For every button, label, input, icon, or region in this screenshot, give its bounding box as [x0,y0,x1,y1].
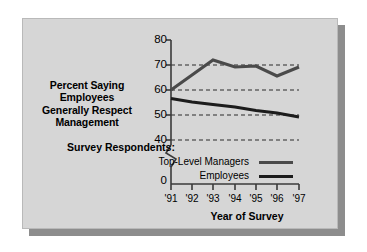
x-axis-caption: Year of Survey [147,210,347,222]
x-axis-tick-label-93: '93 [201,193,225,204]
y-axis-caption-line-2: Employees [27,91,147,103]
legend-entry-top-level-managers: Top-Level Managers [67,156,293,169]
chart-panel: Percent Saying Employees Generally Respe… [22,18,338,229]
x-axis-ticks [171,184,299,190]
legend-entry-employees: Employees [67,170,293,183]
y-axis-caption-line-1: Percent Saying [27,79,147,91]
y-axis-tick-label-50: 50 [141,108,167,120]
legend-title: Survey Respondents: [67,141,175,153]
legend-swatch-top-level-managers [259,161,293,164]
y-axis-tick-label-80: 80 [141,33,167,45]
y-axis-tick-label-70: 70 [141,58,167,70]
chart-figure: Percent Saying Employees Generally Respe… [0,0,367,252]
y-axis-tick-label-60: 60 [141,83,167,95]
series-line-employees [171,99,299,118]
legend-label-top-level-managers: Top-Level Managers [158,156,249,167]
legend-label-employees: Employees [200,170,249,181]
y-axis-caption-line-4: Management [27,116,147,128]
y-axis-caption-line-3: Generally Respect [27,104,147,116]
y-axis-caption: Percent Saying Employees Generally Respe… [27,79,147,129]
x-axis-tick-label-96: '96 [265,193,289,204]
legend-swatch-employees [259,175,293,178]
x-axis-tick-label-97: '97 [287,193,311,204]
